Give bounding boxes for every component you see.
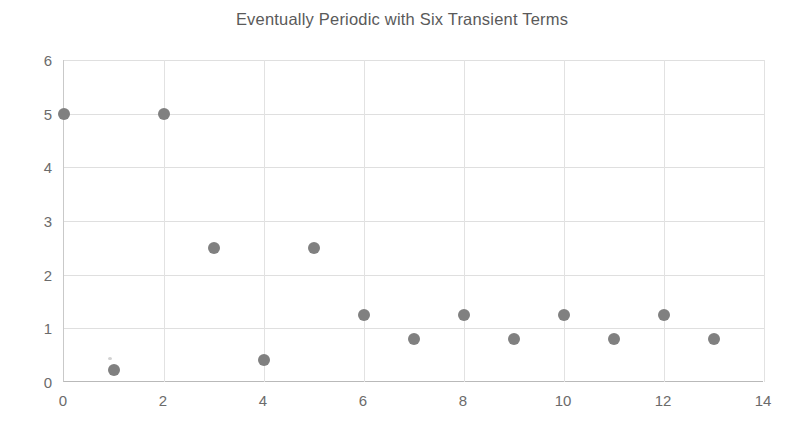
x-axis-tick-label: 8 bbox=[443, 392, 483, 409]
data-point bbox=[708, 333, 720, 345]
data-point bbox=[608, 333, 620, 345]
data-point bbox=[258, 354, 270, 366]
data-point bbox=[358, 309, 370, 321]
y-axis-tick-label: 3 bbox=[22, 213, 52, 230]
gridline-horizontal bbox=[64, 382, 764, 383]
gridline-vertical bbox=[664, 60, 665, 382]
y-axis-tick-label: 0 bbox=[22, 374, 52, 391]
gridline-horizontal bbox=[64, 221, 764, 222]
data-point bbox=[308, 242, 320, 254]
y-axis-tick-label: 2 bbox=[22, 266, 52, 283]
x-axis-tick-label: 14 bbox=[743, 392, 783, 409]
gridline-vertical bbox=[764, 60, 765, 382]
data-point bbox=[458, 309, 470, 321]
scatter-chart-figure: Eventually Periodic with Six Transient T… bbox=[0, 0, 804, 438]
x-axis-tick-label: 10 bbox=[543, 392, 583, 409]
data-point bbox=[108, 364, 120, 376]
x-axis-tick-label: 4 bbox=[243, 392, 283, 409]
plot-area bbox=[63, 60, 763, 382]
gridline-vertical bbox=[564, 60, 565, 382]
data-point bbox=[408, 333, 420, 345]
chart-title: Eventually Periodic with Six Transient T… bbox=[0, 10, 804, 29]
data-point bbox=[208, 242, 220, 254]
gridline-vertical bbox=[464, 60, 465, 382]
x-axis-tick-label: 6 bbox=[343, 392, 383, 409]
x-axis-tick-label: 12 bbox=[643, 392, 683, 409]
gridline-vertical bbox=[364, 60, 365, 382]
gridline-horizontal bbox=[64, 328, 764, 329]
y-axis-tick-label: 1 bbox=[22, 320, 52, 337]
gridline-horizontal bbox=[64, 60, 764, 61]
y-axis-tick-label: 4 bbox=[22, 159, 52, 176]
x-axis-tick-label: 0 bbox=[43, 392, 83, 409]
y-axis-tick-label: 5 bbox=[22, 105, 52, 122]
data-point bbox=[558, 309, 570, 321]
scan-artifact-speck bbox=[108, 357, 112, 360]
data-point bbox=[658, 309, 670, 321]
gridline-horizontal bbox=[64, 167, 764, 168]
data-point bbox=[58, 108, 70, 120]
x-axis-tick-label: 2 bbox=[143, 392, 183, 409]
gridline-horizontal bbox=[64, 275, 764, 276]
data-point bbox=[158, 108, 170, 120]
y-axis-tick-label: 6 bbox=[22, 52, 52, 69]
data-point bbox=[508, 333, 520, 345]
gridline-vertical bbox=[264, 60, 265, 382]
